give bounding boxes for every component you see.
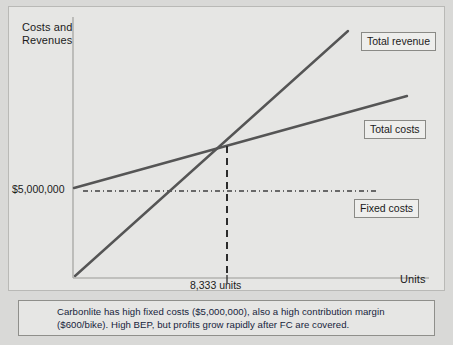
- series-line-total-revenue: [75, 31, 348, 276]
- x-axis-tick-label-break-even: 8,333 units: [190, 279, 241, 291]
- break-even-chart-figure: Costs and Revenues Units Total revenue T…: [0, 0, 453, 345]
- series-line-total-costs: [74, 96, 407, 188]
- y-axis-tick-label-fixed-costs: $5,000,000: [12, 183, 65, 195]
- y-axis-title: Costs and Revenues: [22, 21, 84, 47]
- caption-box: Carbonlite has high fixed costs ($5,000,…: [18, 300, 435, 336]
- chart-panel: Costs and Revenues Units Total revenue T…: [8, 6, 445, 291]
- callout-total-revenue: Total revenue: [361, 32, 436, 51]
- callout-total-costs: Total costs: [364, 120, 426, 139]
- callout-fixed-costs: Fixed costs: [354, 199, 419, 218]
- x-axis-title: Units: [400, 273, 426, 286]
- caption-text: Carbonlite has high fixed costs ($5,000,…: [57, 306, 417, 331]
